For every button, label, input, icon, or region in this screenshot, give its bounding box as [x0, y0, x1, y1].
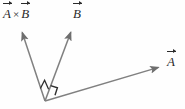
label-a-cross-b-operand-b: B: [21, 6, 29, 20]
vector-diagram: A×B B A: [0, 0, 185, 109]
label-a: A: [167, 54, 175, 68]
label-a-cross-b-operand-a: A: [3, 6, 11, 20]
angle-marker-arc: [40, 80, 48, 89]
cross-product-icon: ×: [11, 8, 21, 20]
label-b: B: [73, 6, 81, 20]
label-b-text: B: [73, 6, 81, 20]
vector-a-shaft: [45, 67, 159, 101]
vector-b-shaft: [45, 32, 71, 101]
label-a-text: A: [167, 54, 175, 68]
vector-a-cross-b-shaft: [22, 33, 45, 102]
label-a-cross-b: A×B: [3, 6, 29, 20]
angle-marker-right-angle: [51, 86, 58, 96]
